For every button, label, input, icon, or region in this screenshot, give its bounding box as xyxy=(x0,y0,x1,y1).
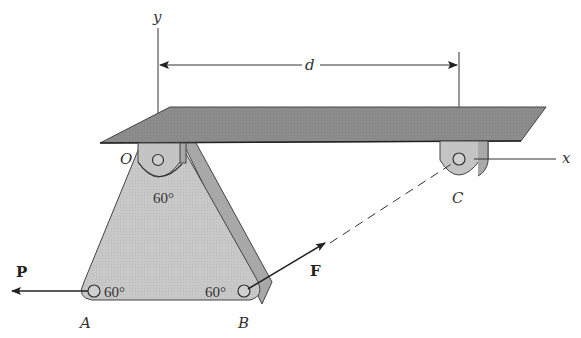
angle-b-label: 60° xyxy=(205,284,226,300)
triangular-plate xyxy=(81,143,272,304)
force-p-label: P xyxy=(16,263,27,281)
point-o-label: O xyxy=(120,150,132,168)
pin-a-icon xyxy=(88,285,100,297)
pin-c-icon xyxy=(453,153,465,165)
point-a-label: A xyxy=(78,314,91,332)
statics-diagram: y d x xyxy=(0,0,581,338)
slab xyxy=(100,107,546,143)
force-f-label: F xyxy=(310,262,321,280)
y-axis-label: y xyxy=(152,8,162,26)
pin-o-icon xyxy=(153,155,164,166)
point-c-label: C xyxy=(452,189,464,207)
dimension-label: d xyxy=(305,56,315,74)
point-b-label: B xyxy=(237,314,249,332)
line-of-action-bc xyxy=(330,163,453,243)
x-axis-label: x xyxy=(562,149,571,167)
x-axis: x xyxy=(474,149,571,167)
angle-o-label: 60° xyxy=(153,190,174,206)
pin-b-icon xyxy=(238,285,250,297)
force-p: P xyxy=(12,263,88,291)
angle-a-label: 60° xyxy=(104,284,125,300)
